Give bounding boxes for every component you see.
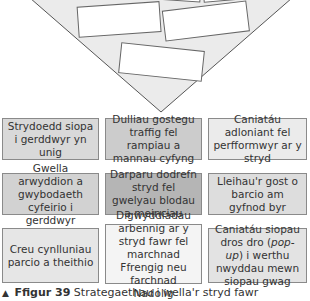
funnel-diagram xyxy=(0,0,310,115)
strategy-text: Caniatáu adloniant fel perfformwyr ar y … xyxy=(213,113,302,165)
strategy-text: Caniatáu siopau dros dro (pop-up) i wert… xyxy=(213,223,302,288)
triangle-marker-icon: ▲ xyxy=(2,288,9,298)
strategy-text: Dulliau gostegu traffig fel rampiau a ma… xyxy=(110,113,197,165)
strategy-box: Dulliau gostegu traffig fel rampiau a ma… xyxy=(105,118,202,160)
strategy-text: Creu cynlluniau parcio a theithio xyxy=(7,243,94,269)
strategy-text: Strydoedd siopa i gerddwyr yn unig xyxy=(7,120,94,159)
funnel-empty-box xyxy=(77,2,161,38)
strategy-box: Strydoedd siopa i gerddwyr yn unig xyxy=(2,118,99,160)
figure-title: Strategaethau i wella'r stryd fawr xyxy=(74,286,259,299)
strategy-box: Digwyddiadau arbennig ar y stryd fawr fe… xyxy=(105,224,202,284)
strategy-box: Creu cynlluniau parcio a theithio xyxy=(2,228,99,283)
strategy-text: Gwella arwyddion a gwybodaeth cyfeirio i… xyxy=(7,162,94,227)
figure-label: Ffigur 39 xyxy=(14,286,70,299)
strategy-box: Caniatáu siopau dros dro (pop-up) i wert… xyxy=(208,228,307,283)
strategy-box: Gwella arwyddion a gwybodaeth cyfeirio i… xyxy=(2,173,99,215)
strategy-box: Caniatáu adloniant fel perfformwyr ar y … xyxy=(208,118,307,160)
figure-caption: ▲ Ffigur 39 Strategaethau i wella'r stry… xyxy=(2,286,258,299)
strategy-text: Lleihau'r gost o barcio am gyfnod byr xyxy=(213,175,302,214)
strategy-box: Lleihau'r gost o barcio am gyfnod byr xyxy=(208,173,307,215)
